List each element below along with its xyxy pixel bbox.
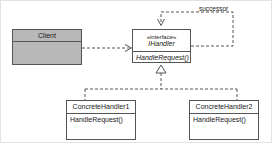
relation-client-uses-ihandler [82,45,132,52]
operation-concretehandler2-handlerequest: HandleRequest() [193,116,246,123]
class-name-client: Client [38,32,56,39]
class-box-client[interactable]: Client [12,29,82,65]
operation-ihandler-handlerequest: HandleRequest() [136,54,189,61]
class-operations-concretehandler2: HandleRequest() [190,114,258,139]
uml-class-diagram-canvas: Client «interface» IHandler HandleReques… [0,0,272,143]
open-arrowhead-client-ihandler [125,45,132,52]
class-title-ihandler: «interface» IHandler [133,30,190,52]
class-box-ihandler[interactable]: «interface» IHandler HandleRequest() [132,29,191,63]
class-title-concretehandler1: ConcreteHandler1 [67,101,135,114]
class-name-ihandler: IHandler [148,40,174,47]
class-operations-concretehandler1: HandleRequest() [67,114,135,139]
association-label-successor: successor [199,5,228,12]
relation-realization-bus [85,65,237,100]
open-arrowhead-successor [158,19,165,26]
class-operations-client [13,42,81,64]
class-title-client: Client [13,30,81,42]
operation-concretehandler1-handlerequest: HandleRequest() [70,116,123,123]
class-box-concretehandler1[interactable]: ConcreteHandler1 HandleRequest() [66,100,136,140]
class-title-concretehandler2: ConcreteHandler2 [190,101,258,114]
class-operations-ihandler: HandleRequest() [133,52,190,62]
hollow-triangle-arrowhead-realization [156,65,166,73]
class-name-concretehandler1: ConcreteHandler1 [73,103,130,110]
class-name-concretehandler2: ConcreteHandler2 [196,103,253,110]
class-box-concretehandler2[interactable]: ConcreteHandler2 HandleRequest() [189,100,259,140]
